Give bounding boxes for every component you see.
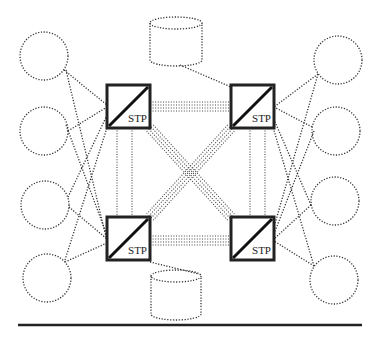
stp-network-diagram: STPSTPSTPSTP xyxy=(0,0,380,340)
link-left1-stp-bl xyxy=(66,70,107,241)
link-right4-stp-br xyxy=(274,241,314,266)
endpoint-left-4 xyxy=(23,254,71,302)
link-left4-stp-tl xyxy=(65,115,111,260)
links-layer xyxy=(64,65,318,274)
endpoint-right-2 xyxy=(312,107,360,155)
link-left-vertical xyxy=(117,128,132,217)
link-left1-stp-tl xyxy=(64,70,107,105)
stp-bottom-right: STP xyxy=(231,217,274,260)
endpoint-right-1 xyxy=(314,36,362,84)
endpoint-left-2 xyxy=(20,107,68,155)
link-left4-stp-bl xyxy=(65,243,107,262)
endpoint-right-4 xyxy=(310,256,358,304)
link-db-top-stp-tr xyxy=(180,65,231,87)
endpoint-left-1 xyxy=(20,32,68,80)
endpoint-left-3 xyxy=(21,181,69,229)
link-diagonal-tl-br xyxy=(147,125,235,220)
link-right-vertical xyxy=(250,128,265,217)
link-right2-stp-tr xyxy=(274,107,312,127)
link-right3-stp-br xyxy=(274,205,311,239)
database-top xyxy=(150,17,202,66)
stp-label: STP xyxy=(252,244,271,256)
stp-label: STP xyxy=(128,112,147,124)
stp-bottom-left: STP xyxy=(107,217,150,260)
stp-label: STP xyxy=(252,112,271,124)
endpoint-right-3 xyxy=(311,177,359,225)
link-right1-stp-tr xyxy=(274,74,318,107)
stp-top-left: STP xyxy=(107,85,150,128)
nodes-layer: STPSTPSTPSTP xyxy=(20,17,362,320)
link-top-horizontal xyxy=(150,102,231,111)
link-diagonal-tr-bl xyxy=(147,125,235,220)
database-bottom xyxy=(151,270,201,320)
link-left2-stp-tl xyxy=(68,107,107,131)
link-db-bottom-stp-bl xyxy=(150,262,199,274)
stp-label: STP xyxy=(128,244,147,256)
link-left3-stp-bl xyxy=(69,207,107,239)
link-right1-stp-br xyxy=(270,74,318,241)
link-bottom-horizontal xyxy=(150,236,231,245)
stp-top-right: STP xyxy=(231,85,274,128)
link-right4-stp-tr xyxy=(270,117,314,266)
link-right3-stp-tr xyxy=(272,115,311,205)
